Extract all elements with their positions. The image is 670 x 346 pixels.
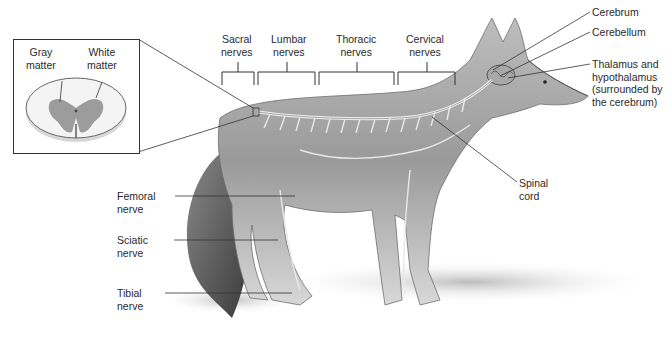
nerve-region-brackets (222, 62, 455, 85)
spinal-cord-label: Spinal cord (519, 177, 548, 202)
tibial-nerve-label: Tibial nerve (117, 287, 143, 312)
sacral-nerves-label: Sacral nerves (221, 33, 253, 58)
spinal-cord-cross-section-inset: Gray matter White matter (13, 39, 140, 154)
cerebellum-label: Cerebellum (592, 26, 646, 39)
cervical-nerves-label: Cervical nerves (406, 33, 444, 58)
ground-shadow (280, 260, 660, 304)
white-matter-label: White matter (87, 46, 117, 71)
lumbar-nerves-label: Lumbar nerves (271, 33, 307, 58)
cerebrum-label: Cerebrum (592, 6, 639, 19)
thalamus-hypothalamus-label: Thalamus and hypothalamus (surrounded by… (592, 58, 663, 108)
gray-matter-label: Gray matter (26, 46, 56, 71)
sciatic-nerve-label: Sciatic nerve (117, 234, 148, 259)
thoracic-nerves-label: Thoracic nerves (336, 33, 376, 58)
femoral-nerve-label: Femoral nerve (117, 190, 156, 215)
